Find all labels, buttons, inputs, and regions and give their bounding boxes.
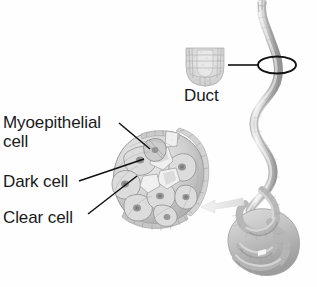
magnified-secretory-unit-cutaway xyxy=(112,128,209,231)
label-myoepithelial-cell: Myoepithelial cell xyxy=(3,113,101,151)
duct-cross-section-inset xyxy=(186,48,224,87)
label-duct: Duct xyxy=(184,86,219,105)
label-dark-cell: Dark cell xyxy=(3,172,68,191)
label-clear-cell: Clear cell xyxy=(3,208,73,227)
wavy-duct-tube xyxy=(248,0,282,211)
sweat-gland-figure: Myoepithelial cell Dark cell Clear cell … xyxy=(0,0,317,287)
